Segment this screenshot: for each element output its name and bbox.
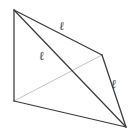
tetrahedron-figure: ℓ ℓ ℓ [0, 0, 133, 135]
edge-BC-hidden [14, 55, 102, 101]
edge-BD [14, 101, 126, 127]
edge-CD [102, 55, 126, 127]
edge-AD [14, 10, 126, 127]
edge-label-right: ℓ [111, 78, 117, 90]
tetrahedron-svg [0, 0, 133, 135]
edge-AC [14, 10, 102, 55]
